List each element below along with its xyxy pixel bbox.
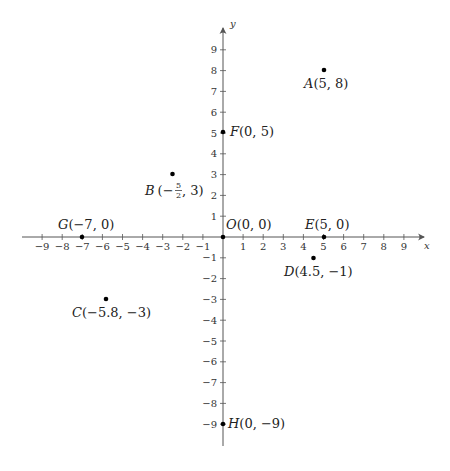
point-e (322, 235, 327, 240)
y-tick-label: 7 (211, 86, 217, 97)
y-tick-label: −3 (202, 294, 217, 305)
y-tick-label: −5 (202, 336, 217, 347)
x-tick-label: −7 (75, 241, 90, 252)
x-tick-label: 9 (401, 241, 407, 252)
y-tick-label: −8 (202, 398, 217, 409)
x-tick-label: −4 (135, 241, 150, 252)
x-tick-label: 1 (240, 241, 246, 252)
y-tick-label: 4 (211, 148, 217, 159)
y-tick-label: 9 (211, 44, 217, 55)
point-g (80, 235, 85, 240)
y-tick-label: −4 (202, 315, 217, 326)
point-b (170, 172, 175, 177)
point-c (104, 297, 109, 302)
label-a: A(5, 8) (303, 76, 348, 91)
x-tick-label: 7 (361, 241, 367, 252)
x-axis-label: x (424, 240, 430, 251)
x-tick-label: −9 (35, 241, 50, 252)
label-b-tail: , 3) (182, 183, 204, 198)
point-f (221, 130, 226, 135)
x-tick-label: 2 (260, 241, 266, 252)
y-tick-label: −7 (202, 377, 217, 388)
label-e: E(5, 0) (304, 217, 349, 232)
x-tick-label: −6 (95, 241, 110, 252)
x-tick-label: −5 (115, 241, 130, 252)
x-tick-label: −3 (155, 241, 170, 252)
label-b: B(− (144, 183, 174, 198)
y-tick-label: −2 (202, 273, 217, 284)
point-d (311, 256, 316, 261)
y-tick-label: 6 (211, 107, 217, 118)
point-a (322, 68, 327, 73)
x-tick-label: 5 (320, 241, 326, 252)
label-f: F(0, 5) (229, 124, 274, 139)
label-c: C(−5.8, −3) (72, 305, 151, 320)
y-tick-label: 2 (211, 190, 217, 201)
label-b-den: 2 (176, 191, 181, 200)
y-tick-label: 1 (211, 211, 217, 222)
label-d: D(4.5, −1) (283, 264, 353, 279)
y-tick-label: −6 (202, 356, 217, 367)
label-b-num: 5 (176, 181, 181, 190)
x-tick-label: −2 (175, 241, 190, 252)
x-tick-label: 3 (280, 241, 286, 252)
label-g: G(−7, 0) (58, 217, 114, 232)
point-h (221, 422, 226, 427)
y-tick-label: 3 (211, 169, 217, 180)
x-tick-label: −8 (55, 241, 70, 252)
y-axis-label: y (229, 18, 236, 29)
coordinate-plane: x y −9−8−7−6−5−4−3−2−1123456789 98765432… (0, 0, 450, 471)
y-tick-label: −1 (202, 252, 217, 263)
y-tick-label: −9 (202, 419, 217, 430)
point-o (221, 235, 226, 240)
y-tick-label: 8 (211, 65, 217, 76)
x-tick-label: −1 (196, 241, 211, 252)
x-tick-label: 6 (340, 241, 346, 252)
x-tick-label: 4 (300, 241, 306, 252)
y-tick-label: 5 (211, 128, 217, 139)
x-tick-label: 8 (381, 241, 387, 252)
label-o: O(0, 0) (226, 217, 272, 232)
label-h: H(0, −9) (227, 416, 285, 431)
